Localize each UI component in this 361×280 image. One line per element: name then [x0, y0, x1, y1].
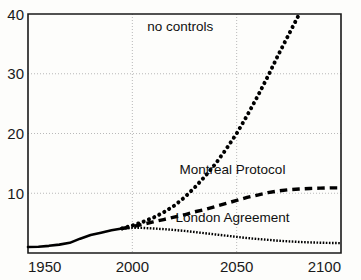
annotation-montreal-protocol: Montreal Protocol	[180, 162, 286, 177]
y-tick-label-20: 20	[7, 125, 24, 142]
annotation-no-controls: no controls	[147, 19, 213, 34]
x-tick-label-2050: 2050	[220, 258, 253, 275]
chart-container: 1950200020502100 10203040 no controlsMon…	[0, 0, 361, 280]
x-tick-label-1950: 1950	[28, 258, 61, 275]
ozone-projection-line-chart: 1950200020502100 10203040 no controlsMon…	[0, 0, 361, 280]
annotation-london-agreement: London Agreement	[175, 210, 289, 225]
x-tick-label-2100: 2100	[308, 258, 341, 275]
chart-background	[0, 0, 361, 280]
y-tick-label-30: 30	[7, 65, 24, 82]
y-tick-label-40: 40	[7, 6, 24, 23]
y-tick-label-10: 10	[7, 185, 24, 202]
x-tick-label-2000: 2000	[116, 258, 149, 275]
